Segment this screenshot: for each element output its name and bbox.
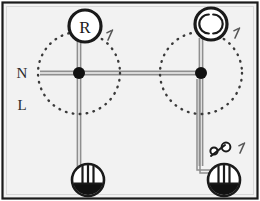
wiring-diagram-canvas: RNL <box>0 0 260 201</box>
bus-label-neutral: N <box>17 65 28 81</box>
junction-right <box>195 67 207 79</box>
ventilator-fan[interactable] <box>195 8 227 40</box>
regulator-controller-letter: R <box>79 18 91 37</box>
bus-label-line: L <box>17 97 26 113</box>
wiring-diagram-frame: RNL <box>0 0 260 201</box>
junction-left <box>73 67 85 79</box>
regulator-controller[interactable]: R <box>69 10 101 42</box>
